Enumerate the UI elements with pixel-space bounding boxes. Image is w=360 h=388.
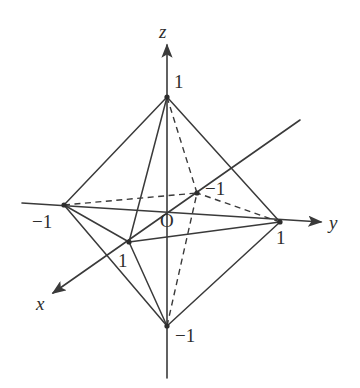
octahedron-diagram-svg: xyz1−11−11−1O	[0, 0, 360, 388]
vertex-label-z-positive: 1	[174, 71, 184, 92]
axis-label-x: x	[35, 293, 45, 314]
octahedron-figure: xyz1−11−11−1O	[0, 0, 360, 388]
axis-label-y: y	[327, 212, 338, 233]
vertex-point-z-negative	[164, 323, 169, 328]
origin-label: O	[160, 210, 174, 231]
hidden-edge	[64, 193, 197, 205]
vertex-point-z-positive	[164, 94, 169, 99]
vertex-point-y-positive	[277, 219, 282, 224]
vertex-label-y-negative: −1	[32, 211, 52, 232]
axis-label-z: z	[158, 21, 167, 42]
vertex-point-x-positive	[126, 239, 131, 244]
visible-edge	[64, 205, 129, 242]
vertex-label-x-negative: −1	[205, 178, 225, 199]
vertex-label-x-positive: 1	[118, 250, 128, 271]
visible-edge	[129, 242, 167, 326]
visible-edge	[167, 97, 280, 222]
vertex-point-x-negative	[194, 190, 199, 195]
labels-group: xyz1−11−11−1O	[32, 21, 338, 346]
visible-edge	[167, 222, 280, 326]
vertex-label-z-negative: −1	[175, 325, 195, 346]
hidden-edge	[167, 97, 197, 193]
visible-edge	[64, 97, 167, 205]
vertex-label-y-positive: 1	[276, 227, 286, 248]
axis-line-x	[53, 120, 300, 293]
vertex-point-y-negative	[61, 202, 66, 207]
visible-edge	[129, 222, 280, 242]
